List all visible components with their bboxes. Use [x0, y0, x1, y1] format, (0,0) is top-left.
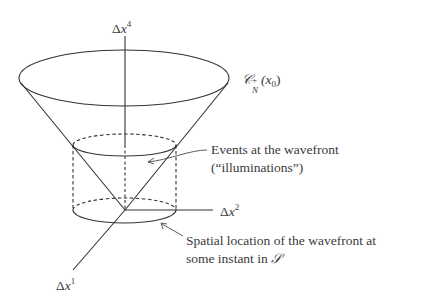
cone-label: 𝒞+N(x0): [242, 73, 281, 89]
delta-symbol: Δ: [56, 278, 65, 293]
superscript: 2: [235, 202, 240, 212]
spacetime-symbol: 𝒮: [271, 251, 281, 266]
cone-arg-close: ): [276, 72, 281, 87]
cone-arg: (x: [261, 72, 272, 87]
axis-x1: [73, 210, 125, 270]
spatial-text: some instant in: [186, 251, 271, 266]
spatial-annotation-line1: Spatial location of the wavefront at: [186, 234, 376, 248]
cone-sub: N: [252, 86, 258, 95]
events-pointer-arrow: [148, 150, 207, 162]
spatial-ellipse-front: [73, 210, 176, 223]
delta-symbol: Δ: [112, 21, 121, 36]
axis-x4-label: Δx4: [112, 20, 131, 36]
delta-symbol: Δ: [220, 204, 229, 219]
superscript: 4: [127, 19, 132, 29]
cone-top-ellipse: [19, 50, 229, 106]
cone-sup: +: [252, 76, 257, 85]
superscript: 1: [71, 276, 76, 286]
spatial-annotation-line2: some instant in 𝒮: [186, 252, 281, 266]
events-annotation-line2: (“illuminations”): [211, 161, 303, 175]
events-annotation-line1: Events at the wavefront: [211, 143, 339, 157]
axis-x1-label: Δx1: [56, 277, 75, 293]
spatial-pointer-arrow: [162, 224, 183, 236]
axis-x2-label: Δx2: [220, 203, 239, 219]
cone-symbol: 𝒞: [242, 72, 252, 87]
